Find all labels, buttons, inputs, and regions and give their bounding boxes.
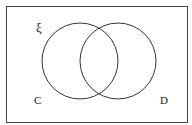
set-d-label: D: [160, 94, 168, 106]
venn-diagram: ξ C D: [0, 0, 192, 125]
set-c-label: C: [34, 94, 41, 106]
universal-set-label: ξ: [36, 20, 42, 35]
